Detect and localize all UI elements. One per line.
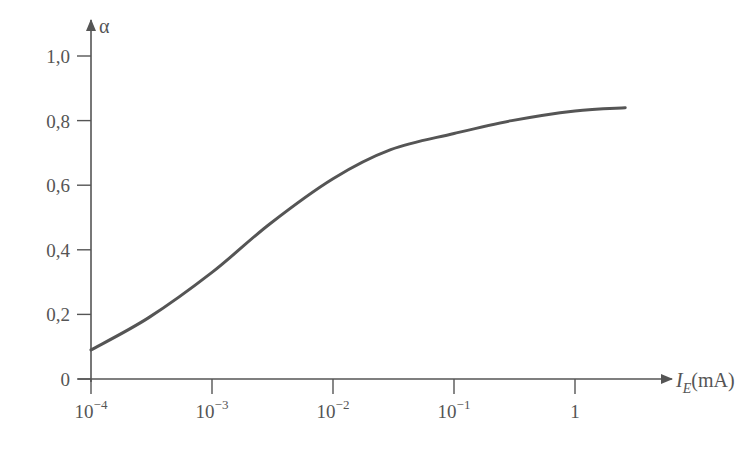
x-ticks: 10−410−310−210−11	[75, 379, 580, 422]
y-tick-label: 0,2	[46, 304, 70, 325]
x-tick-label: 10−2	[317, 397, 350, 422]
chart: 00,20,40,60,81,0 10−410−310−210−11 α IE(…	[0, 0, 745, 451]
alpha-curve	[91, 108, 625, 350]
y-ticks: 00,20,40,60,81,0	[46, 46, 91, 390]
y-tick-label: 0,6	[46, 175, 70, 196]
x-tick-label: 1	[570, 401, 580, 422]
x-axis-label: IE(mA)	[675, 369, 735, 396]
y-tick-label: 0,8	[46, 111, 70, 132]
y-tick-label: 0	[61, 369, 71, 390]
x-tick-label: 10−4	[75, 397, 108, 422]
y-axis-label: α	[99, 15, 110, 37]
x-tick-label: 10−1	[438, 397, 471, 422]
y-tick-label: 0,4	[46, 240, 70, 261]
y-tick-label: 1,0	[46, 46, 70, 67]
x-tick-label: 10−3	[196, 397, 229, 422]
